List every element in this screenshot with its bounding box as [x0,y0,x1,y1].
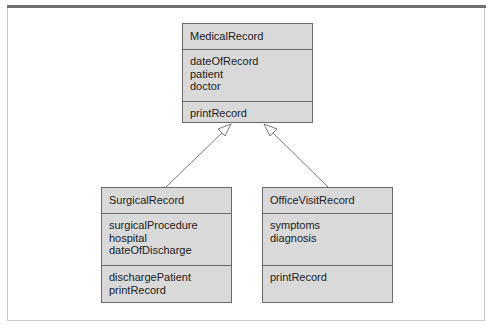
operation: printRecord [270,271,392,284]
attribute: doctor [190,80,312,93]
class-name: SurgicalRecord [109,194,184,207]
attributes-section: symptoms diagnosis [263,214,392,266]
operations-section: printRecord [263,266,392,284]
attribute: symptoms [270,219,392,232]
operations-section: dischargePatient printRecord [102,266,231,296]
attribute: surgicalProcedure [109,219,231,232]
generalization-arrow-surgical [166,124,231,187]
attribute: diagnosis [270,232,392,245]
class-medical-record[interactable]: MedicalRecord dateOfRecord patient docto… [182,23,313,123]
attribute: patient [190,68,312,81]
operation: dischargePatient [109,271,231,284]
operations-section: printRecord [183,102,312,120]
attribute: dateOfDischarge [109,244,231,257]
attribute: dateOfRecord [190,55,312,68]
class-name-section: MedicalRecord [183,24,312,50]
hollow-triangle-icon [264,124,277,136]
class-name: MedicalRecord [190,30,263,43]
generalization-arrow-officevisit [264,124,328,187]
class-name-section: OfficeVisitRecord [263,188,392,214]
class-name-section: SurgicalRecord [102,188,231,214]
attributes-section: surgicalProcedure hospital dateOfDischar… [102,214,231,266]
attributes-section: dateOfRecord patient doctor [183,50,312,102]
operation: printRecord [190,107,312,120]
class-name: OfficeVisitRecord [270,194,355,207]
operation: printRecord [109,284,231,297]
class-surgical-record[interactable]: SurgicalRecord surgicalProcedure hospita… [101,187,232,303]
class-office-visit-record[interactable]: OfficeVisitRecord symptoms diagnosis pri… [262,187,393,303]
attribute: hospital [109,232,231,245]
